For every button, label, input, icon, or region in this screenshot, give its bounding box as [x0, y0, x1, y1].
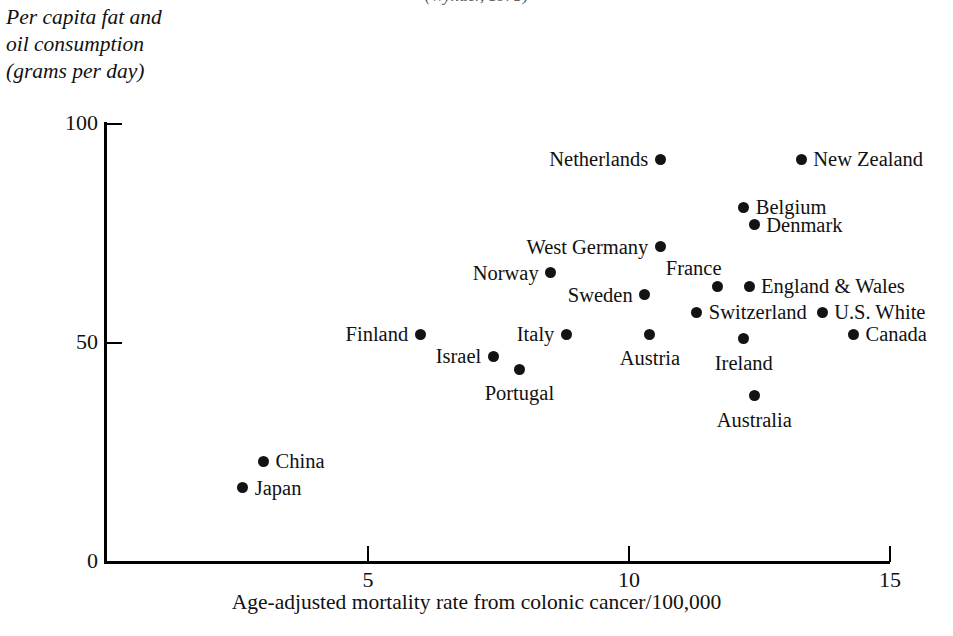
data-point	[655, 241, 666, 252]
data-point	[514, 364, 525, 375]
data-point	[545, 267, 556, 278]
data-point	[817, 307, 828, 318]
x-tick-mark	[628, 546, 630, 562]
data-point	[691, 307, 702, 318]
y-tick-mark	[106, 342, 122, 344]
x-axis-label: Age-adjusted mortality rate from colonic…	[0, 590, 953, 615]
data-point-label: England & Wales	[761, 276, 905, 297]
data-point-label: West Germany	[388, 237, 648, 258]
data-point-label: Canada	[865, 324, 926, 345]
y-tick-label: 0	[28, 548, 98, 574]
data-point-label: Denmark	[766, 215, 842, 236]
data-point	[796, 154, 807, 165]
y-tick-label: 100	[28, 110, 98, 136]
y-axis-label: Per capita fat and oil consumption (gram…	[6, 4, 162, 85]
data-point-label: Norway	[279, 263, 539, 284]
data-point-label: Netherlands	[388, 149, 648, 170]
data-point-label: France	[666, 258, 722, 279]
data-point-label: Italy	[294, 324, 554, 345]
y-axis-label-line-2: oil consumption	[6, 31, 162, 58]
x-tick-mark	[889, 546, 891, 562]
data-point-label: New Zealand	[813, 149, 923, 170]
data-point	[237, 482, 248, 493]
data-point	[655, 154, 666, 165]
data-point-label: Switzerland	[709, 302, 807, 323]
data-point-label: Austria	[600, 348, 700, 369]
data-point	[749, 390, 760, 401]
data-point-label: Japan	[255, 478, 302, 499]
data-point-label: Portugal	[469, 383, 569, 404]
y-tick-mark	[106, 123, 122, 125]
data-point-label: Sweden	[373, 285, 633, 306]
data-point	[639, 289, 650, 300]
data-point	[738, 333, 749, 344]
y-axis-label-line-3: (grams per day)	[6, 58, 162, 85]
data-point	[488, 351, 499, 362]
data-point-label: U.S. White	[834, 302, 925, 323]
data-point	[738, 202, 749, 213]
data-point-label: Israel	[221, 346, 481, 367]
x-axis-spine	[104, 561, 890, 564]
data-point	[712, 281, 723, 292]
y-tick-label: 50	[28, 329, 98, 355]
data-point	[848, 329, 859, 340]
data-point	[749, 219, 760, 230]
y-axis-label-line-1: Per capita fat and	[6, 4, 162, 31]
data-point	[644, 329, 655, 340]
data-point-label: China	[276, 451, 325, 472]
x-tick-mark	[367, 546, 369, 562]
scatter-plot-figure: (Wynder, 1975) Per capita fat and oil co…	[0, 0, 953, 636]
data-point-label: Ireland	[694, 353, 794, 374]
data-point-label: Australia	[704, 410, 804, 431]
data-point	[744, 281, 755, 292]
data-point	[561, 329, 572, 340]
data-point	[258, 456, 269, 467]
